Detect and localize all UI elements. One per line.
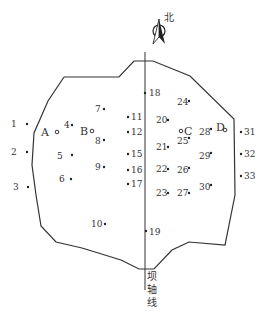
point-label-3: 3 xyxy=(13,183,19,192)
station-label-c: C xyxy=(184,126,192,137)
point-label-21: 21 xyxy=(156,143,167,152)
point-label-29: 29 xyxy=(199,152,210,161)
north-label: 北 xyxy=(164,11,174,24)
point-label-26: 26 xyxy=(177,166,188,175)
point-label-27: 27 xyxy=(177,189,188,198)
point-label-33: 33 xyxy=(244,172,255,181)
point-label-17: 17 xyxy=(131,180,142,189)
point-label-5: 5 xyxy=(57,152,63,161)
point-label-11: 11 xyxy=(131,113,142,122)
point-label-1: 1 xyxy=(11,120,17,129)
point-label-18: 18 xyxy=(149,89,160,98)
point-label-15: 15 xyxy=(131,150,142,159)
point-label-8: 8 xyxy=(95,137,101,146)
point-label-12: 12 xyxy=(131,128,142,137)
point-label-16: 16 xyxy=(131,166,142,175)
point-label-28: 28 xyxy=(199,128,210,137)
point-label-22: 22 xyxy=(156,165,167,174)
station-label-d: D xyxy=(216,122,225,133)
point-label-4: 4 xyxy=(64,121,70,130)
station-label-b: B xyxy=(80,126,88,137)
point-label-20: 20 xyxy=(156,116,167,125)
point-label-2: 2 xyxy=(11,148,17,157)
point-label-23: 23 xyxy=(156,189,167,198)
dam-axis-label-char-2: 轴 xyxy=(147,283,159,296)
point-label-24: 24 xyxy=(177,98,188,107)
point-label-7: 7 xyxy=(95,105,101,114)
point-label-10: 10 xyxy=(91,220,102,229)
point-label-25: 25 xyxy=(177,137,188,146)
point-label-30: 30 xyxy=(199,183,210,192)
point-label-32: 32 xyxy=(244,150,255,159)
dam-axis-label-char-3: 线 xyxy=(147,296,159,309)
point-label-31: 31 xyxy=(244,128,255,137)
station-label-a: A xyxy=(41,127,49,138)
dam-axis-label-char-1: 坝 xyxy=(147,270,159,283)
dam-axis-label: 坝 轴 线 xyxy=(147,270,159,309)
point-label-9: 9 xyxy=(95,163,101,172)
point-label-19: 19 xyxy=(149,228,160,237)
point-label-6: 6 xyxy=(59,175,65,184)
